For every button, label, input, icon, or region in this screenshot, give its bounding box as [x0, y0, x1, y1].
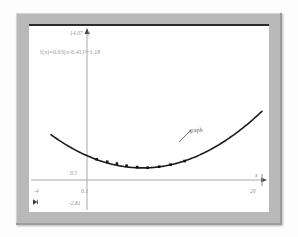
data-point-marker[interactable]: [146, 166, 149, 169]
y-min-tick-label: -2.81: [69, 200, 80, 206]
data-point-marker[interactable]: [116, 162, 119, 165]
y-axis-symbol: y: [88, 30, 90, 36]
data-point-marker[interactable]: [158, 165, 161, 168]
graph-window-frame: f(x)=0.03(x-6.41)²+1.18 14.07 y 0.5 -4 0…: [16, 13, 282, 225]
data-point-marker[interactable]: [136, 166, 139, 169]
frame-shadow-bottom: [16, 223, 282, 225]
parabola-curve[interactable]: [51, 111, 262, 168]
curve-callout-label: graph: [189, 127, 203, 134]
data-point-marker[interactable]: [183, 160, 186, 163]
x-origin-tick-label: 0.1: [81, 188, 88, 194]
data-point-marker[interactable]: [169, 163, 172, 166]
expand-marker-icon[interactable]: [33, 199, 39, 205]
frame-shadow-right: [280, 13, 282, 225]
x-axis-symbol: x: [255, 172, 257, 178]
x-max-tick-label: 20: [250, 188, 256, 194]
data-point-marker[interactable]: [125, 164, 128, 167]
x-min-tick-label: -4: [34, 188, 39, 194]
frame-highlight-left: [16, 13, 17, 225]
data-point-marker[interactable]: [95, 158, 98, 161]
frame-highlight-top: [16, 13, 282, 14]
y-mid-tick-label: 0.5: [70, 170, 77, 176]
equation-label: f(x)=0.03(x-6.41)²+1.18: [40, 49, 100, 55]
screenshot-root: f(x)=0.03(x-6.41)²+1.18 14.07 y 0.5 -4 0…: [0, 0, 298, 237]
y-max-tick-label: 14.07: [70, 30, 82, 36]
data-point-marker[interactable]: [106, 160, 109, 163]
plot-canvas[interactable]: f(x)=0.03(x-6.41)²+1.18 14.07 y 0.5 -4 0…: [29, 24, 269, 212]
